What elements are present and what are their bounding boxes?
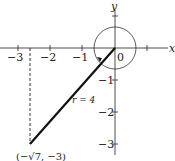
x-tick-neg2: −2 [40, 51, 56, 64]
y-tick-neg2: −2 [98, 106, 114, 119]
y-tick-neg3: −3 [98, 138, 114, 151]
radius-label: r = 4 [72, 95, 96, 105]
polar-diagram: x y 0 −3 −2 −1 −1 −2 −3 r = 4 (−√7, −3) [0, 0, 175, 161]
point-label: (−√7, −3) [16, 151, 66, 161]
x-tick-neg1: −1 [72, 51, 88, 64]
y-axis-label: y [110, 0, 118, 13]
y-tick-neg1: −1 [98, 74, 114, 87]
x-axis-label: x [169, 42, 175, 55]
x-tick-neg3: −3 [7, 51, 23, 64]
origin-label: 0 [117, 51, 124, 64]
